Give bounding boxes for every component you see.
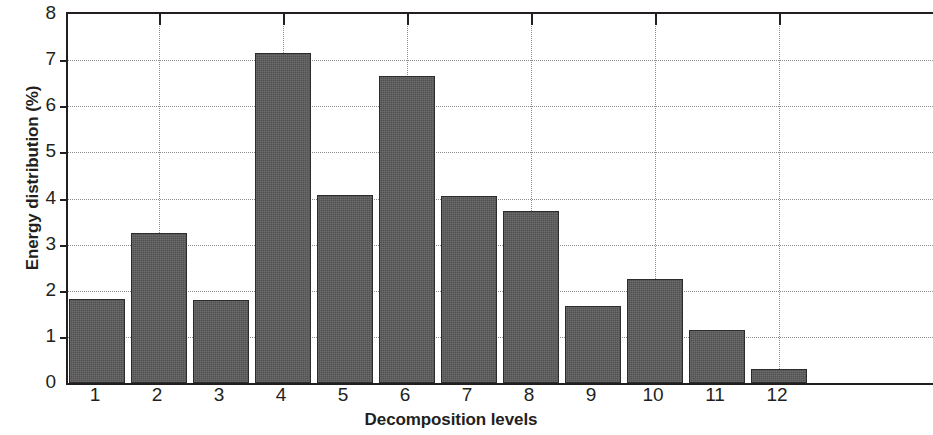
y-tick-mark-2: [60, 291, 68, 293]
x-tick-label-2: 2: [132, 385, 182, 404]
x-tick-label-4: 4: [256, 385, 306, 404]
y-tick-label-7: 7: [30, 49, 56, 68]
x-tick-label-7: 7: [442, 385, 492, 404]
x-tick-label-9: 9: [566, 385, 616, 404]
y-tick-mark-4: [60, 199, 68, 201]
x-tick-label-3: 3: [194, 385, 244, 404]
bar-level-12: [751, 369, 807, 383]
y-tick-label-8: 8: [30, 3, 56, 22]
bar-level-11: [689, 330, 745, 384]
x-tick-label-6: 6: [380, 385, 430, 404]
gridline-y-7: [68, 60, 933, 61]
y-tick-mark-6: [60, 106, 68, 108]
bar-level-10: [627, 279, 683, 383]
x-tick-label-5: 5: [318, 385, 368, 404]
gridline-x-12: [779, 14, 780, 383]
x-tick-label-12: 12: [752, 385, 802, 404]
bar-level-3: [193, 300, 249, 383]
x-axis-title: Decomposition levels: [66, 410, 836, 430]
x-tick-label-1: 1: [70, 385, 120, 404]
bar-level-4: [255, 53, 311, 383]
gridline-y-5: [68, 152, 933, 153]
y-tick-label-5: 5: [30, 141, 56, 160]
x-tick-mark-8: [531, 14, 533, 25]
bar-level-6: [379, 76, 435, 383]
gridline-y-2: [68, 291, 933, 292]
x-tick-mark-2: [159, 14, 161, 25]
x-tick-label-8: 8: [504, 385, 554, 404]
bar-level-9: [565, 306, 621, 383]
y-tick-label-2: 2: [30, 280, 56, 299]
bar-level-7: [441, 196, 497, 383]
x-tick-mark-10: [655, 14, 657, 25]
y-tick-mark-1: [60, 337, 68, 339]
x-tick-mark-6: [407, 14, 409, 25]
x-tick-mark-4: [283, 14, 285, 25]
y-tick-mark-5: [60, 152, 68, 154]
gridline-y-3: [68, 245, 933, 246]
y-tick-label-6: 6: [30, 95, 56, 114]
bar-level-1: [69, 299, 125, 383]
y-tick-label-4: 4: [30, 188, 56, 207]
x-tick-label-11: 11: [690, 385, 740, 404]
y-tick-label-0: 0: [30, 372, 56, 391]
bar-level-8: [503, 211, 559, 384]
plot-area: [66, 12, 933, 385]
gridline-y-4: [68, 199, 933, 200]
x-tick-mark-12: [779, 14, 781, 25]
gridline-y-6: [68, 106, 933, 107]
x-axis-tick-labels: 123456789101112: [66, 385, 931, 413]
y-tick-mark-7: [60, 60, 68, 62]
y-tick-label-1: 1: [30, 326, 56, 345]
bar-level-2: [131, 233, 187, 383]
bar-level-5: [317, 195, 373, 383]
y-axis-tick-labels: 012345678: [14, 0, 56, 435]
y-tick-mark-3: [60, 245, 68, 247]
x-tick-label-10: 10: [628, 385, 678, 404]
y-tick-label-3: 3: [30, 234, 56, 253]
